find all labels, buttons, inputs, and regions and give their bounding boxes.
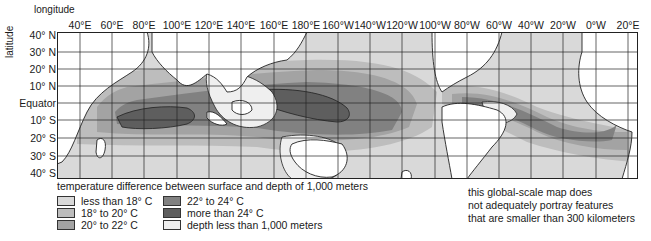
legend-label: depth less than 1,000 meters <box>187 219 322 231</box>
lon-label: 0°W <box>586 19 606 31</box>
legend-item: depth less than 1,000 meters <box>163 219 322 231</box>
legend-item: 20° to 22° C <box>57 219 138 231</box>
legend-title: temperature difference between surface a… <box>57 180 368 192</box>
lon-label: 120°E <box>195 19 224 31</box>
scale-note-line-3: that are smaller than 300 kilometers <box>468 212 635 224</box>
lon-label: 120°W <box>386 19 418 31</box>
legend-item: 18° to 20° C <box>57 207 138 219</box>
lon-label: 20°W <box>550 19 576 31</box>
lon-label: 140°W <box>354 19 386 31</box>
lon-label: 140°E <box>227 19 256 31</box>
longitude-axis-title: longitude <box>34 4 75 15</box>
legend-swatch <box>57 220 75 230</box>
lon-label: 100°W <box>419 19 451 31</box>
lon-label: 80°E <box>133 19 156 31</box>
legend-label: 22° to 24° C <box>187 195 244 207</box>
legend-label: 18° to 20° C <box>81 207 138 219</box>
legend-swatch <box>57 196 75 206</box>
legend-swatch <box>163 196 181 206</box>
lon-label: 20°E <box>617 19 640 31</box>
legend-swatch <box>57 208 75 218</box>
lat-label: 40° S <box>30 167 56 179</box>
lon-label: 160°W <box>322 19 354 31</box>
lat-label: 30° S <box>30 150 56 162</box>
lon-label: 60°W <box>486 19 512 31</box>
lon-label: 60°E <box>101 19 124 31</box>
lat-label: 20° S <box>30 132 56 144</box>
lon-label: 180°E <box>292 19 321 31</box>
lat-label: 30° N <box>30 46 56 58</box>
lat-label: Equator <box>19 97 56 109</box>
lat-label: 10° S <box>30 114 56 126</box>
lon-label: 100°E <box>163 19 192 31</box>
legend-label: 20° to 22° C <box>81 219 138 231</box>
lon-label: 80°W <box>454 19 480 31</box>
ocean-temperature-map <box>57 32 638 179</box>
legend-item: less than 18° C <box>57 195 152 207</box>
legend-swatch <box>163 208 181 218</box>
latitude-axis-title: latitude <box>4 26 15 58</box>
legend-item: 22° to 24° C <box>163 195 244 207</box>
lat-label: 10° N <box>30 80 56 92</box>
lon-label: 40°W <box>518 19 544 31</box>
legend-swatch <box>163 220 181 230</box>
legend-label: more than 24° C <box>187 207 264 219</box>
scale-note-line-2: not adequately portray features <box>468 199 613 211</box>
lat-label: 20° N <box>30 63 56 75</box>
lon-label: 160°E <box>260 19 289 31</box>
scale-note-line-1: this global-scale map does <box>468 186 592 198</box>
legend-label: less than 18° C <box>81 195 152 207</box>
legend-item: more than 24° C <box>163 207 264 219</box>
lat-label: 40° N <box>30 29 56 41</box>
lon-label: 40°E <box>69 19 92 31</box>
